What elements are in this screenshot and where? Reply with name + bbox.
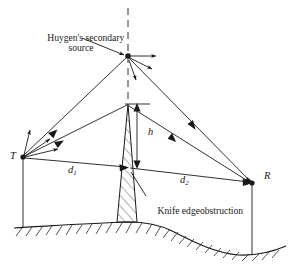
distance-d2-label: d2 — [180, 174, 189, 188]
knife-label-line-2: obstruction — [200, 205, 243, 216]
receiver-label: R — [264, 170, 270, 182]
receiver-node — [249, 180, 254, 185]
distance-d1-dimension — [25, 158, 129, 172]
huygen-label-line-2: source — [27, 43, 135, 54]
height-label: h — [148, 126, 153, 138]
figure-canvas: Huygen's secondarysource Knife edgeobstr… — [0, 0, 293, 278]
knife-edge-obstruction-shape — [117, 104, 137, 222]
huygen-secondary-source-label: Huygen's secondarysource — [27, 22, 135, 76]
transmitter-label: T — [10, 150, 16, 162]
ray-knife-tip-to-receiver — [129, 106, 252, 186]
transmitter-node — [20, 154, 25, 159]
huygen-label-line-1: Huygen's secondary — [47, 32, 124, 43]
distance-d2-dimension — [130, 168, 252, 186]
d1-subscript: 1 — [73, 169, 77, 177]
ground-profile — [14, 222, 286, 261]
knife-edge-obstruction-label: Knife edgeobstruction — [148, 195, 240, 227]
knife-label-line-1: Knife edge — [158, 205, 200, 216]
distance-d1-label: d1 — [68, 164, 77, 178]
ray-transmitter-to-knife-tip — [25, 105, 127, 156]
d2-subscript: 2 — [185, 179, 189, 187]
ray-huygen-source-to-receiver — [129, 58, 253, 183]
